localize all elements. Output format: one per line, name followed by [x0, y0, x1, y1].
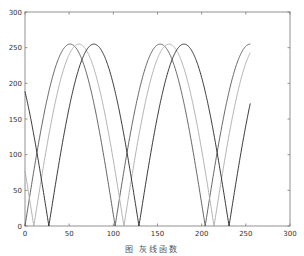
x-tick-label: 300 — [283, 230, 296, 238]
x-tick-label: 250 — [239, 230, 252, 238]
x-tick-label: 50 — [65, 230, 74, 238]
y-tick-label: 300 — [9, 9, 22, 17]
y-tick-label: 150 — [9, 116, 22, 124]
x-tick-label: 0 — [23, 230, 27, 238]
x-tick-label: 200 — [195, 230, 208, 238]
y-tick-label: 100 — [9, 151, 22, 159]
chart-figure: 050100150200250300 050100150200250300 — [0, 0, 304, 256]
y-tick-label: 0 — [18, 223, 22, 231]
y-tick-label: 200 — [9, 80, 22, 88]
figure-caption: 图 灰线函数 — [0, 243, 304, 254]
x-tick-label: 100 — [107, 230, 120, 238]
y-tick-label: 50 — [13, 187, 22, 195]
y-tick-label: 250 — [9, 44, 22, 52]
x-tick-label: 150 — [151, 230, 164, 238]
